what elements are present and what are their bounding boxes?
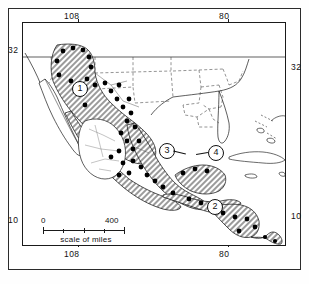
- latitude-label-left-10: 10: [8, 215, 18, 225]
- map-graphic: [23, 23, 285, 245]
- scale-bar-start-label: 0: [41, 216, 45, 225]
- latitude-label-right-10: 10: [291, 211, 301, 221]
- scale-tick-0: [43, 227, 44, 234]
- scale-tick-400: [124, 227, 125, 234]
- scale-tick-200: [84, 228, 85, 233]
- scale-bar-numbers: 0 400: [43, 216, 135, 227]
- region-marker-2[interactable]: 2: [207, 199, 223, 215]
- map-frame: [22, 22, 286, 246]
- latitude-label-left-32: 32: [8, 45, 18, 55]
- distribution-map-figure: 108 80 108 80 32 32 10 10 104: [0, 0, 309, 284]
- scale-tick-100: [63, 229, 64, 233]
- latitude-label-right-32: 32: [291, 62, 301, 72]
- map-canvas: [23, 23, 285, 245]
- scale-bar: 0 400 scale of miles: [43, 216, 135, 244]
- scale-bar-ruler: [43, 227, 135, 234]
- longitude-label-bottom-right: 80: [219, 249, 229, 259]
- scale-tick-300: [104, 229, 105, 233]
- longitude-label-bottom-left: 108: [64, 249, 79, 259]
- scale-caption: scale of miles: [43, 235, 129, 244]
- region-marker-1[interactable]: 1: [72, 81, 88, 97]
- region-marker-4[interactable]: 4: [208, 145, 224, 161]
- scale-bar-end-label: 400: [105, 216, 118, 225]
